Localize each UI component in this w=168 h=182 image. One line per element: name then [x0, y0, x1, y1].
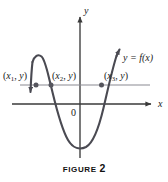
point-label-2-close: ): [73, 70, 76, 82]
marker-point-3: [99, 83, 104, 88]
point-label-2: (x2, y): [52, 70, 76, 82]
point-label-3-close: ): [125, 70, 128, 82]
left-branch-arrow: [31, 62, 33, 92]
x-axis-label: x: [157, 98, 163, 109]
y-axis-label: y: [83, 5, 89, 16]
point-label-3: (x3, y): [104, 70, 128, 82]
point-label-1: (x1, y): [3, 70, 27, 82]
figure-caption: FIGURE 2: [0, 162, 168, 174]
point-label-1-close: ): [24, 70, 27, 82]
marker-point-2: [49, 83, 54, 88]
origin-label: 0: [71, 107, 76, 118]
right-branch-arrow: [117, 50, 120, 57]
figure-caption-prefix: FIGURE: [63, 165, 97, 174]
figure-container: y x 0 (x1, y) (x2, y) (x3, y) y = f(x) F…: [0, 0, 168, 182]
function-label: y = f(x): [122, 52, 154, 64]
figure-caption-number: 2: [99, 162, 105, 174]
graph-canvas: y x 0 (x1, y) (x2, y) (x3, y) y = f(x): [0, 0, 168, 182]
marker-point-1: [34, 83, 39, 88]
